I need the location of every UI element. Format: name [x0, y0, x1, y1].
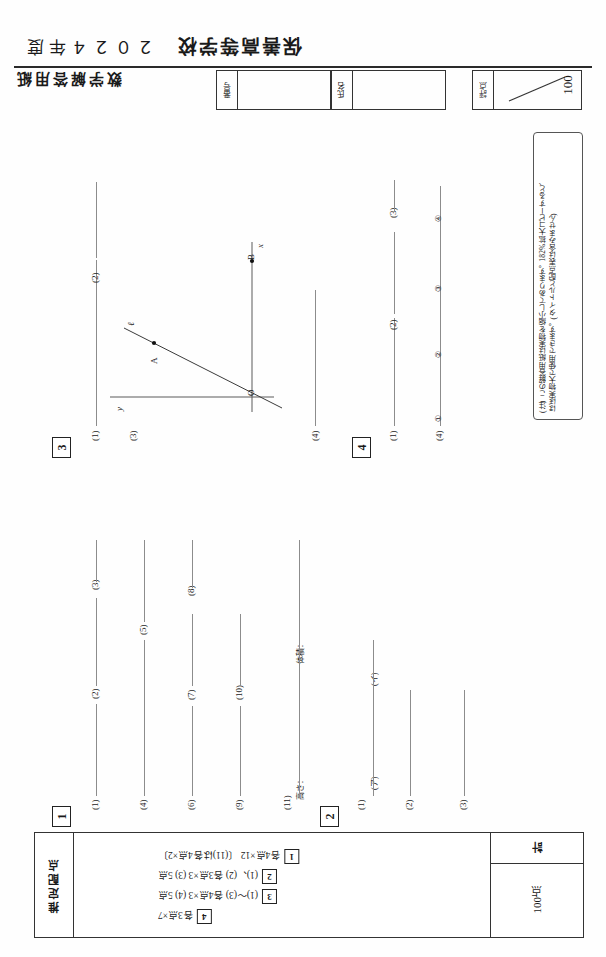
q1-item-3-label: (3)	[90, 580, 100, 591]
name-label-cell: 氏名	[332, 71, 353, 109]
allocation-row: 4 各3点×7	[158, 909, 212, 924]
q1-item-10-label: (10)	[234, 685, 244, 700]
allocation-label-cell: 推定配点	[35, 833, 74, 937]
q1-item-4-answer-line[interactable]	[144, 640, 145, 796]
q4-item-1-answer-line[interactable]	[394, 318, 395, 426]
answer-sheet-page: ２０２４年度 保善高等学校 数学解答用紙 番号 氏名 評点 100 (注) この…	[0, 0, 606, 957]
q1-item-10-answer-line[interactable]	[240, 614, 241, 686]
question-4-label: 4	[354, 445, 369, 451]
allocation-box-number: 4	[197, 909, 212, 924]
allocation-box-number: 3	[262, 889, 277, 904]
school-name: 保善高等学校	[176, 34, 302, 61]
q3-item-4-answer-line[interactable]	[315, 290, 316, 426]
q3-coordinate-figure: ℓ A B O x y	[96, 236, 286, 418]
q4-item-3-label: (3)	[388, 208, 398, 219]
allocation-total-cell: 計 100点	[490, 833, 583, 937]
q3-item-4-label: (4)	[310, 431, 320, 442]
allocation-total-value: 100点	[529, 886, 545, 914]
q2-item-2-answer-line[interactable]	[410, 690, 411, 796]
q2-item-3-label: (3)	[458, 800, 468, 811]
question-3-label: 3	[54, 445, 69, 451]
figure-point-b: B	[246, 254, 256, 260]
q3-item-3-label: (3)	[128, 431, 138, 442]
score-allocation-table: 推定配点 1 各4点×12 〔(11)は各4点×2〕 2 (1)、(2) 各3点…	[34, 832, 584, 938]
examinee-id-box: 番号 氏名	[216, 70, 446, 110]
q1-item-1-label: (1)	[90, 800, 100, 811]
figure-axis-x: x	[255, 244, 265, 248]
question-2-number: 2	[320, 806, 339, 827]
q1-item-2-answer-line[interactable]	[96, 598, 97, 686]
q3-item-1-label: (1)	[90, 431, 100, 442]
number-label: 番号	[222, 82, 233, 98]
q1-item-6-answer-line[interactable]	[192, 706, 193, 796]
q2-item-1-answer-line[interactable]	[373, 640, 374, 796]
q1-item-1-answer-line[interactable]	[96, 704, 97, 796]
q1-item-2-label: (2)	[90, 689, 100, 700]
score-label-cell: 評点	[473, 71, 494, 109]
allocation-box-number: 2	[262, 869, 277, 884]
allocation-total-value-cell: 100点	[491, 863, 583, 937]
reduction-note-text: (注) この解答用紙は実物を縮小してあります。182%拡大コピーすると、 ほぼ実…	[538, 139, 578, 413]
note-line-1: (注) この解答用紙は実物を縮小してあります。182%拡大コピーすると、	[538, 179, 547, 413]
exam-year: ２０２４年度	[22, 36, 154, 61]
allocation-total-header: 計	[491, 833, 583, 864]
q4-item-2-label: (2)	[388, 320, 398, 331]
figure-svg	[96, 236, 286, 418]
q1-item-11-answer-line[interactable]	[299, 540, 300, 798]
allocation-rows: 1 各4点×12 〔(11)は各4点×2〕 2 (1)、(2) 各3点×3 (3…	[74, 833, 490, 937]
figure-axis-y: y	[114, 407, 124, 411]
q1-item-8-answer-line[interactable]	[192, 540, 193, 588]
q1-item-8-label: (8)	[186, 586, 196, 597]
q4-item-3-answer-line[interactable]	[394, 180, 395, 212]
question-2-label: 2	[322, 814, 337, 820]
q1-item-7-label: (7)	[186, 690, 196, 701]
q2-item-3-answer-line[interactable]	[464, 690, 465, 796]
allocation-row-text: (1)、(2) 各3点×3 (3) 5点	[158, 870, 258, 884]
allocation-label: 推定配点	[46, 857, 62, 913]
score-label: 評点	[478, 82, 489, 98]
q1-item-5-label: (5)	[138, 625, 148, 636]
q4-sub-4-label: ④	[434, 215, 443, 222]
q2-item-2-label: (2)	[404, 800, 414, 811]
q4-sub-2-label: ②	[434, 351, 443, 358]
allocation-row-text: 各3点×7	[158, 910, 193, 924]
q4-item-1-label: (1)	[388, 431, 398, 442]
q2-item-1-label: (1)	[356, 800, 366, 811]
q1-item-5-answer-line[interactable]	[144, 540, 145, 622]
figure-line-label: ℓ	[126, 322, 136, 326]
name-input[interactable]	[353, 71, 445, 109]
allocation-row: 3 (1)〜(3) 各4点×3 (4) 5点	[158, 889, 277, 904]
q4-sub-1-label: ①	[434, 415, 443, 422]
q1-item-6-label: (6)	[186, 800, 196, 811]
q1-item-4-label: (4)	[138, 800, 148, 811]
question-3-number: 3	[52, 437, 71, 458]
note-line-2: ほぼ実物大で使用できます。(タイトルと配点表は含みません)	[549, 213, 558, 413]
q4-item-4-label: (4)	[434, 431, 444, 442]
number-input[interactable]	[238, 71, 330, 109]
q4-item-2-answer-line[interactable]	[394, 232, 395, 314]
sheet-title: 数学解答用紙	[14, 70, 122, 91]
header-rule	[14, 66, 592, 68]
name-label: 氏名	[336, 82, 347, 98]
allocation-body: 1 各4点×12 〔(11)は各4点×2〕 2 (1)、(2) 各3点×3 (3…	[74, 833, 490, 937]
question-1-number: 1	[52, 806, 71, 827]
allocation-box-number: 1	[284, 849, 299, 864]
figure-origin: O	[246, 390, 256, 397]
score-box: 評点 100	[472, 70, 582, 110]
allocation-row: 2 (1)、(2) 各3点×3 (3) 5点	[158, 869, 277, 884]
question-1-label: 1	[54, 814, 69, 820]
q1-item-7-answer-line[interactable]	[192, 614, 193, 686]
q4-sub-3-label: ③	[434, 285, 443, 292]
q4-item-4-answer-line[interactable]	[440, 186, 441, 426]
q1-item-3-answer-line[interactable]	[96, 540, 97, 582]
reduction-note-box: (注) この解答用紙は実物を縮小してあります。182%拡大コピーすると、 ほぼ実…	[533, 132, 583, 420]
q1-item-9-answer-line[interactable]	[240, 706, 241, 796]
figure-point-a: A	[149, 358, 159, 365]
q1-item-9-label: (9)	[234, 800, 244, 811]
allocation-row: 1 各4点×12 〔(11)は各4点×2〕	[158, 849, 299, 864]
allocation-row-text: (1)〜(3) 各4点×3 (4) 5点	[158, 890, 258, 904]
score-max: 100	[559, 75, 575, 95]
allocation-row-text: 各4点×12 〔(11)は各4点×2〕	[158, 850, 280, 864]
number-label-cell: 番号	[217, 71, 238, 109]
score-entry-area[interactable]: 100	[493, 71, 581, 109]
